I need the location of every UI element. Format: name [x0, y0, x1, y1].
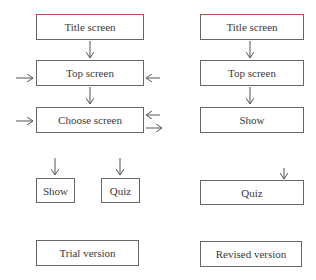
trial-top-screen-box: Top screen: [36, 60, 144, 86]
trial-version-label: Trial version: [59, 247, 115, 259]
trial-choose-screen-label: Choose screen: [58, 114, 122, 126]
revised-quiz-box: Quiz: [200, 180, 304, 205]
revised-title-screen-box: Title screen: [200, 14, 304, 40]
revised-quiz-label: Quiz: [241, 187, 262, 199]
trial-show-label: Show: [43, 185, 68, 197]
trial-quiz-box: Quiz: [101, 178, 140, 203]
revised-show-label: Show: [239, 114, 264, 126]
revised-title-screen-label: Title screen: [226, 21, 277, 33]
trial-title-screen-label: Title screen: [64, 21, 115, 33]
revised-top-screen-label: Top screen: [228, 67, 276, 79]
trial-quiz-label: Quiz: [110, 185, 131, 197]
trial-show-box: Show: [36, 178, 75, 203]
trial-title-screen-box: Title screen: [36, 14, 144, 40]
revised-version-caption: Revised version: [200, 241, 302, 267]
trial-top-screen-label: Top screen: [66, 67, 114, 79]
revised-show-box: Show: [200, 107, 304, 133]
trial-version-caption: Trial version: [36, 240, 139, 266]
revised-version-label: Revised version: [216, 248, 287, 260]
arrows-layer: [0, 0, 316, 280]
revised-top-screen-box: Top screen: [200, 60, 304, 86]
trial-choose-screen-box: Choose screen: [36, 107, 144, 133]
